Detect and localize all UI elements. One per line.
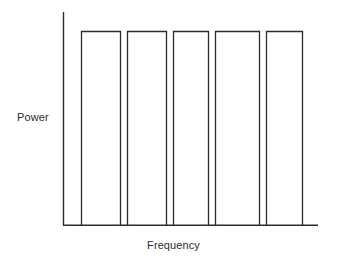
y-axis-label: Power: [17, 111, 49, 123]
bar-2: [128, 32, 167, 226]
bar-3: [174, 32, 209, 226]
x-axis-label: Frequency: [0, 239, 347, 251]
power-frequency-chart: Power Frequency: [0, 0, 347, 268]
bar-5: [267, 32, 303, 226]
bar-1: [82, 32, 121, 226]
plot-area: [0, 0, 347, 268]
bar-4: [216, 32, 260, 226]
